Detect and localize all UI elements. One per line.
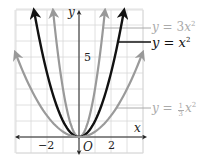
x-axis-label: x <box>134 122 141 134</box>
label-y-third-x2: y = 13x2 <box>152 102 196 118</box>
label-y-3x2: y = 3x2 <box>152 21 195 33</box>
x-tick-neg2: −2 <box>38 140 54 151</box>
origin-label: O <box>83 141 93 153</box>
axes <box>17 12 145 153</box>
y-tick-5: 5 <box>84 52 91 63</box>
x-tick-2: 2 <box>108 140 115 151</box>
y-axis-label: y <box>68 6 75 18</box>
label-y-x2: y = x2 <box>152 36 190 49</box>
